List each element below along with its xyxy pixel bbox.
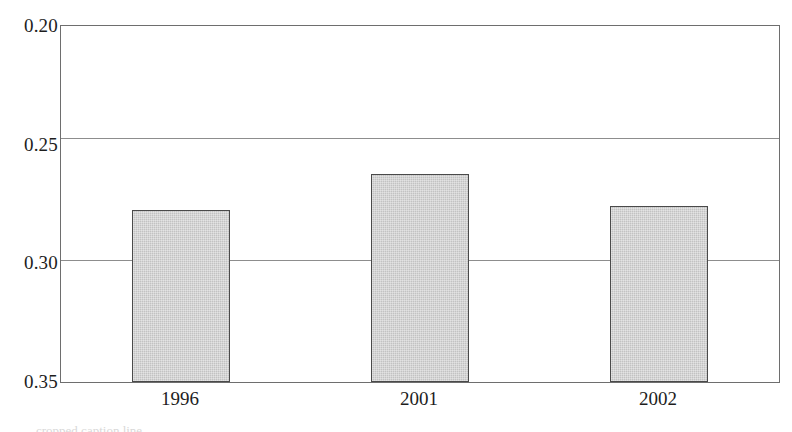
y-axis-tick-label-0-25: 0.25 (2, 135, 58, 154)
gridline-0-30 (61, 138, 779, 139)
y-axis-tick-label-0-20: 0.20 (2, 16, 58, 35)
bar-2001 (371, 174, 469, 382)
bar-chart-figure: 0.35 0.30 0.25 0.20 1996 2001 2002 cropp… (0, 0, 792, 432)
x-axis-label-1996: 1996 (120, 388, 240, 410)
x-axis-label-2002: 2002 (598, 388, 718, 410)
bar-1996 (132, 210, 230, 382)
y-axis-tick-label-0-30: 0.30 (2, 253, 58, 272)
y-axis-tick-label-0-35: 0.35 (2, 372, 58, 391)
bar-2002 (610, 206, 708, 382)
x-axis-label-2001: 2001 (359, 388, 479, 410)
plot-area (60, 25, 780, 383)
cropped-caption: cropped caption line (36, 424, 466, 432)
